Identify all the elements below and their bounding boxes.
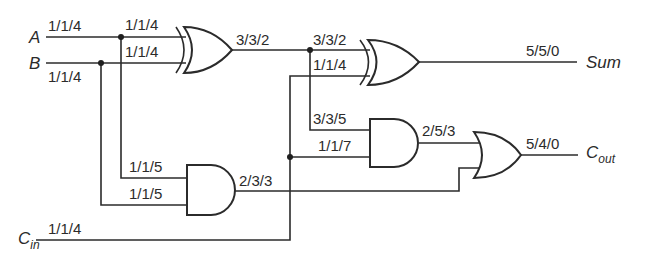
label-xor1-out: 3/3/2: [236, 31, 269, 48]
output-cout-name: Cout: [586, 143, 616, 166]
label-and1-out: 2/5/3: [422, 122, 455, 139]
or-gate: [474, 132, 521, 178]
full-adder-circuit: A B Cin 1/1/4 1/1/4 1/1/4 1/1/4 1/1/4 3/…: [0, 0, 655, 266]
input-cin-name: Cin: [18, 229, 40, 252]
and-gate-1: [370, 119, 418, 167]
label-and1-in2: 1/1/7: [318, 137, 351, 154]
label-cout: 5/4/0: [526, 135, 559, 152]
label-b: 1/1/4: [48, 68, 81, 85]
label-and2-in1: 1/1/5: [129, 158, 162, 175]
wire-b-branch: [101, 63, 188, 205]
xor-gate-1: [176, 27, 232, 73]
input-b-name: B: [29, 54, 40, 73]
label-and2-out: 2/3/3: [239, 172, 272, 189]
label-a: 1/1/4: [48, 17, 81, 34]
label-and1-in1: 3/3/5: [313, 110, 346, 127]
label-xor2-in1: 3/3/2: [313, 31, 346, 48]
junction-b: [98, 60, 104, 66]
junction-cin: [287, 154, 293, 160]
input-a-name: A: [28, 28, 40, 47]
label-xor2-in2: 1/1/4: [313, 56, 346, 73]
label-xor1-in2: 1/1/4: [125, 43, 158, 60]
label-sum: 5/5/0: [526, 42, 559, 59]
junction-a: [118, 34, 124, 40]
label-and2-in2: 1/1/5: [129, 185, 162, 202]
label-xor1-in1: 1/1/4: [125, 16, 158, 33]
xor-gate-2: [360, 40, 419, 85]
output-sum-name: Sum: [586, 53, 621, 72]
label-cin: 1/1/4: [48, 220, 81, 237]
and-gate-2: [187, 165, 235, 215]
